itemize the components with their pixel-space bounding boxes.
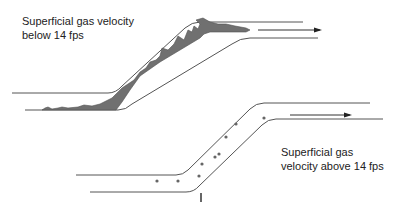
bottom-case-label: Superficial gas velocity above 14 fps <box>281 145 384 173</box>
top-case-label-line2: below 14 fps <box>22 28 134 42</box>
bottom-case-label-line1: Superficial gas <box>281 145 384 159</box>
bottom-case-label-line2: velocity above 14 fps <box>281 159 384 173</box>
flow-arrow-head-top <box>314 28 322 33</box>
flow-arrow-head-bottom <box>344 113 352 118</box>
droplets <box>155 116 265 182</box>
top-case-label-line1: Superficial gas velocity <box>22 14 134 28</box>
top-case-label: Superficial gas velocity below 14 fps <box>22 14 134 42</box>
